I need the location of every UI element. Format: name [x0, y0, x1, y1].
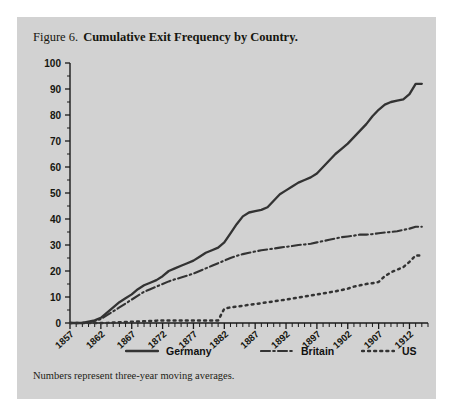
- legend-swatch-dash-dot: [260, 346, 294, 356]
- y-axis-tick-label: 70: [50, 136, 62, 147]
- cumulative-exit-frequency-chart: 0102030405060708090100 18571862186718721…: [17, 55, 436, 365]
- y-axis-tick-label: 30: [50, 240, 62, 251]
- y-axis-tick-label: 80: [50, 110, 62, 121]
- y-axis: 0102030405060708090100: [44, 58, 70, 329]
- figure-panel: Figure 6.Cumulative Exit Frequency by Co…: [17, 17, 436, 399]
- figure-title: Cumulative Exit Frequency by Country.: [83, 30, 298, 44]
- y-axis-tick-label: 100: [44, 58, 61, 69]
- legend-label: Britain: [301, 345, 334, 357]
- legend-label: Germany: [166, 345, 212, 357]
- legend-item-us: US: [361, 343, 417, 359]
- y-axis-tick-label: 50: [50, 188, 62, 199]
- legend-item-britain: Britain: [260, 343, 334, 359]
- legend-swatch-dotted: [361, 346, 395, 356]
- series-line-germany: [70, 84, 422, 323]
- legend-swatch-solid: [125, 346, 159, 356]
- legend-item-germany: Germany: [125, 343, 212, 359]
- y-axis-tick-label: 90: [50, 84, 62, 95]
- y-axis-tick-label: 0: [55, 318, 61, 329]
- y-axis-tick-label: 10: [50, 292, 62, 303]
- series-line-us: [70, 255, 422, 323]
- series-line-britain: [70, 227, 422, 323]
- figure-note: Numbers represent three-year moving aver…: [33, 370, 234, 381]
- figure-number: Figure 6.: [33, 30, 78, 44]
- figure-caption: Figure 6.Cumulative Exit Frequency by Co…: [33, 30, 298, 45]
- y-axis-tick-label: 20: [50, 266, 62, 277]
- chart-plot-area: 0102030405060708090100 18571862186718721…: [17, 55, 436, 365]
- y-axis-tick-label: 40: [50, 214, 62, 225]
- legend-label: US: [402, 345, 417, 357]
- y-axis-tick-label: 60: [50, 162, 62, 173]
- chart-legend: GermanyBritainUS: [17, 343, 436, 363]
- chart-series-group: [70, 84, 422, 323]
